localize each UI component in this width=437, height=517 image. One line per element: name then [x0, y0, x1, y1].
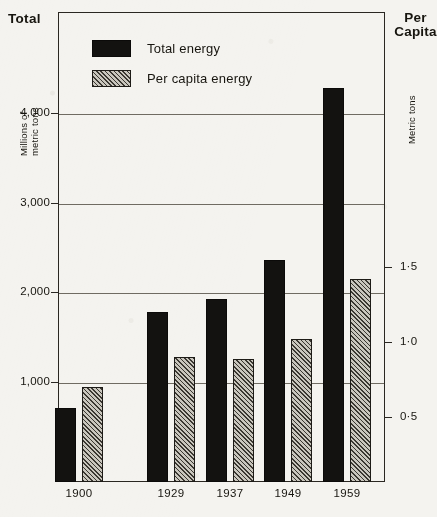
bar-total-energy-1937: [206, 299, 227, 482]
bar-per-capita-energy-1937: [233, 359, 254, 483]
left-tick-2000: [51, 292, 58, 293]
bar-total-energy-1959: [323, 88, 344, 482]
x-tick-label-1959: 1959: [324, 487, 370, 499]
bar-total-energy-1929: [147, 312, 168, 482]
right-tick-label-1-0: 1·0: [400, 335, 417, 347]
right-tick-label-0-5: 0·5: [400, 410, 417, 422]
right-tick-0-5: [385, 417, 392, 418]
left-tick-4000: [51, 113, 58, 114]
legend-item-per-capita-energy: Per capita energy: [92, 66, 252, 90]
right-axis-title: PerCapita: [394, 11, 437, 39]
bar-total-energy-1949: [264, 260, 285, 482]
left-axis-unit-line1: Millions of: [18, 112, 29, 156]
legend-swatch-per-capita-energy: [92, 70, 131, 87]
legend-label-total-energy: Total energy: [147, 41, 220, 56]
legend-label-per-capita-energy: Per capita energy: [147, 71, 252, 86]
bar-per-capita-energy-1949: [291, 339, 312, 482]
left-tick-3000: [51, 203, 58, 204]
right-tick-label-1-5: 1·5: [400, 260, 417, 272]
left-axis-title: Total: [8, 11, 41, 26]
right-axis-title-line2: Capita: [394, 24, 436, 39]
right-tick-1-0: [385, 342, 392, 343]
left-tick-label-3000: 3,000: [2, 196, 50, 208]
right-tick-1-5: [385, 267, 392, 268]
right-axis-title-line1: Per: [404, 10, 426, 25]
left-tick-label-2000: 2,000: [2, 285, 50, 297]
right-axis-unit-label: Metric tons: [406, 52, 417, 144]
bar-per-capita-energy-1959: [350, 279, 371, 482]
bar-per-capita-energy-1900: [82, 387, 103, 482]
left-tick-label-1000: 1,000: [2, 375, 50, 387]
bar-per-capita-energy-1929: [174, 357, 195, 482]
x-tick-label-1937: 1937: [207, 487, 253, 499]
x-tick-label-1900: 1900: [56, 487, 102, 499]
energy-bar-chart: Total Millions ofmetric tons PerCapita M…: [0, 0, 437, 517]
x-tick-label-1949: 1949: [265, 487, 311, 499]
bar-total-energy-1900: [55, 408, 76, 482]
left-axis-unit-label: Millions ofmetric tons: [18, 46, 40, 156]
left-tick-label-4000: 4,000: [2, 106, 50, 118]
left-tick-1000: [51, 382, 58, 383]
legend-item-total-energy: Total energy: [92, 36, 252, 60]
x-tick-label-1929: 1929: [148, 487, 194, 499]
chart-legend: Total energy Per capita energy: [92, 36, 252, 96]
legend-swatch-total-energy: [92, 40, 131, 57]
